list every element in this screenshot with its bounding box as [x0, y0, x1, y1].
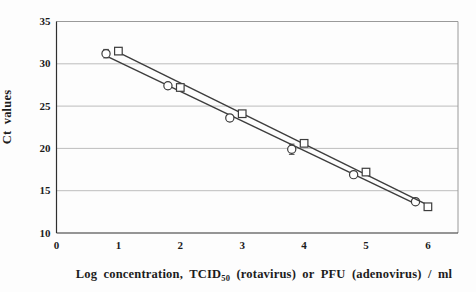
x-tick-label: 1 [116, 239, 122, 251]
x-axis-title-suffix: (rotavirus) or PFU (adenovirus) / ml [230, 267, 452, 281]
x-tick-label: 5 [363, 239, 369, 251]
y-tick-label: 25 [40, 100, 52, 112]
x-tick-label: 4 [301, 239, 307, 251]
qpcr-standard-curve-figure: 1015202530350123456 Ct values Log concen… [0, 0, 476, 292]
x-axis-title-prefix: Log concentration, TCID [76, 267, 221, 281]
data-point-circle-rotavirus [226, 114, 234, 122]
chart-canvas: 1015202530350123456 Ct values Log concen… [0, 0, 476, 292]
x-axis-title: Log concentration, TCID50 (rotavirus) or… [76, 267, 453, 283]
data-point-square-adenovirus [424, 203, 432, 211]
data-point-circle-rotavirus [350, 171, 358, 179]
data-point-square-adenovirus [115, 47, 123, 55]
x-tick-label: 0 [54, 239, 60, 251]
trendline-rotavirus [106, 56, 416, 204]
y-tick-label: 10 [40, 227, 52, 239]
y-axis-title: Ct values [0, 90, 14, 144]
y-tick-label: 15 [40, 184, 52, 196]
x-axis-title-subscript: 50 [221, 273, 230, 283]
y-tick-label: 35 [40, 15, 52, 27]
data-point-square-adenovirus [300, 140, 308, 148]
x-tick-label: 2 [178, 239, 184, 251]
data-point-square-adenovirus [362, 168, 370, 176]
trendline-adenovirus [118, 52, 428, 205]
x-tick-label: 6 [425, 239, 431, 251]
data-point-circle-rotavirus [288, 145, 296, 153]
y-tick-label: 30 [40, 57, 52, 69]
data-point-square-adenovirus [177, 84, 185, 92]
data-point-circle-rotavirus [102, 50, 110, 58]
y-tick-label: 20 [40, 142, 52, 154]
data-point-circle-rotavirus [164, 82, 172, 90]
data-point-square-adenovirus [238, 110, 246, 118]
x-tick-label: 3 [239, 239, 245, 251]
plot-area: 1015202530350123456 [40, 15, 459, 251]
